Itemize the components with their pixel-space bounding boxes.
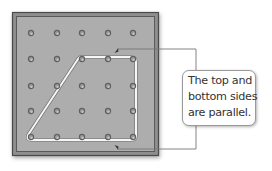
peg-highlight	[57, 86, 59, 88]
peg-highlight	[133, 137, 135, 139]
peg-highlight	[57, 33, 59, 35]
peg-highlight	[57, 59, 59, 61]
peg-highlight	[133, 33, 135, 35]
callout-line-3: are parallel.	[188, 105, 255, 121]
peg-highlight	[57, 111, 59, 113]
peg-highlight	[31, 59, 33, 61]
peg-highlight	[133, 59, 135, 61]
peg-highlight	[82, 137, 84, 139]
peg-highlight	[31, 86, 33, 88]
peg-highlight	[108, 137, 110, 139]
peg-highlight	[133, 111, 135, 113]
geoboard-figure: The top and bottom sides are parallel.	[0, 0, 272, 171]
peg-highlight	[31, 137, 33, 139]
callout-line-2: bottom sides	[188, 89, 255, 105]
peg-highlight	[108, 86, 110, 88]
peg-highlight	[82, 111, 84, 113]
peg-highlight	[57, 137, 59, 139]
callout-box: The top and bottom sides are parallel.	[182, 70, 256, 126]
callout-line-1: The top and	[188, 73, 255, 89]
peg-highlight	[31, 33, 33, 35]
peg-highlight	[108, 111, 110, 113]
peg-highlight	[31, 111, 33, 113]
peg-highlight	[82, 33, 84, 35]
peg-highlight	[108, 33, 110, 35]
peg-highlight	[82, 86, 84, 88]
peg-highlight	[133, 86, 135, 88]
peg-highlight	[108, 59, 110, 61]
peg-highlight	[82, 59, 84, 61]
